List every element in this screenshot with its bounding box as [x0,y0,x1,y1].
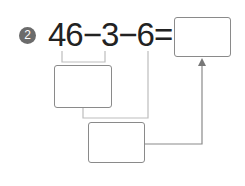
step2-input-box[interactable] [88,122,145,163]
step1-input-box[interactable] [54,65,112,108]
answer-input-box[interactable] [174,17,231,57]
arrow-up-icon [198,58,206,66]
math-problem-card: 2 46−3−6= [0,0,245,186]
